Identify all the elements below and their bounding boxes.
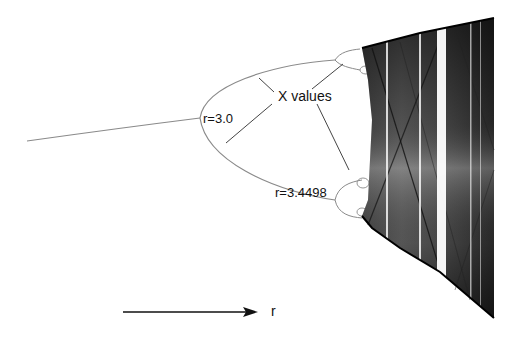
stable-branch (27, 118, 200, 141)
period4-lower-a (335, 180, 362, 200)
period4-lower-b (335, 200, 362, 218)
pointer-line-upper-right (312, 64, 343, 89)
r3-label: r=3.0 (203, 112, 233, 125)
diagram-canvas (0, 0, 518, 338)
pointer-line-upper-left (259, 78, 274, 92)
period4-upper-b (335, 60, 360, 70)
bifurcation-diagram: X values r=3.0 r=3.4498 r (0, 0, 518, 338)
pointer-line-lower-right (317, 104, 349, 170)
period8-lower-loop-top (357, 178, 369, 188)
r-axis-label: r (271, 304, 276, 318)
r34498-label: r=3.4498 (275, 186, 327, 199)
chaotic-region (362, 18, 494, 318)
x-values-label: X values (278, 89, 332, 103)
period4-upper-a (335, 49, 360, 60)
